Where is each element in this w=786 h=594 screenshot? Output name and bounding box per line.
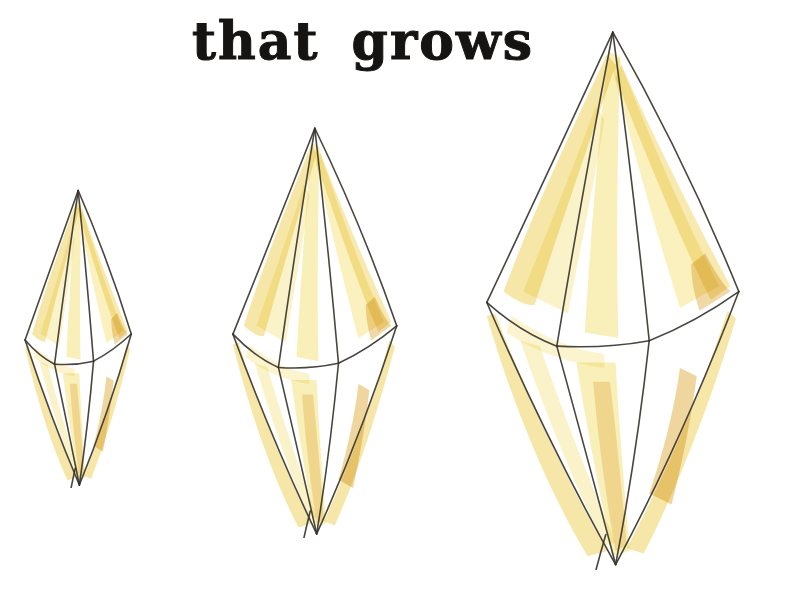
crystal-large <box>470 24 750 570</box>
crystal-small <box>18 186 136 488</box>
watercolor-wash <box>487 51 736 556</box>
watercolor-wash <box>233 143 395 528</box>
watercolor-wash <box>25 201 130 480</box>
crystal-medium <box>222 122 404 538</box>
illustration-canvas: that grows <box>0 0 786 594</box>
